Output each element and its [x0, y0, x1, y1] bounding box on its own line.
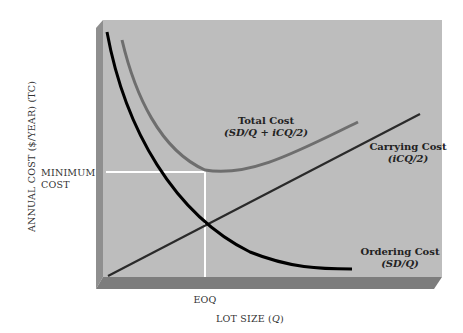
- carrying-cost-label: Carrying Cost: [369, 141, 447, 152]
- x-axis-label: LOT SIZE (Q): [216, 313, 284, 324]
- eoq-label: EOQ: [193, 294, 216, 305]
- y-axis-label: ANNUAL COST ($/YEAR) (TC): [26, 81, 37, 233]
- total-cost-label: Total Cost: [238, 115, 295, 126]
- minimum-cost-label-line2: COST: [41, 179, 70, 190]
- ordering-cost-formula: (SD/Q): [381, 258, 419, 269]
- carrying-cost-formula: (iCQ/2): [388, 153, 429, 164]
- panel-left-side: [96, 20, 103, 289]
- minimum-cost-label-line1: MINIMUM: [41, 167, 95, 178]
- ordering-cost-label: Ordering Cost: [360, 246, 439, 257]
- panel-bottom-side: [96, 277, 442, 289]
- eoq-cost-chart: Total Cost (SD/Q + iCQ/2) Carrying Cost …: [0, 0, 463, 333]
- total-cost-formula: (SD/Q + iCQ/2): [224, 127, 308, 138]
